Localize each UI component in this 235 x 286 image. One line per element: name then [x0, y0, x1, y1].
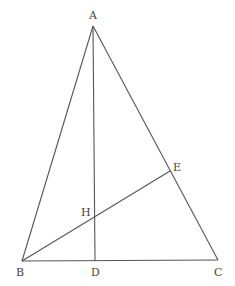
- point-label-a: A: [88, 9, 98, 22]
- segment-be-altitude: [22, 171, 170, 261]
- segment-ad-altitude: [93, 26, 95, 261]
- geometry-diagram: A B C D E H: [0, 0, 235, 286]
- segments-group: [22, 26, 218, 261]
- segment-ab: [22, 26, 93, 261]
- triangle-figure: A B C D E H: [0, 0, 235, 286]
- point-label-c: C: [214, 266, 222, 279]
- point-label-h: H: [81, 206, 91, 219]
- segment-bc: [22, 260, 218, 261]
- labels-group: A B C D E H: [16, 9, 222, 279]
- point-label-b: B: [16, 266, 24, 279]
- segment-ac: [93, 26, 218, 260]
- point-label-d: D: [91, 266, 100, 279]
- point-label-e: E: [173, 161, 181, 174]
